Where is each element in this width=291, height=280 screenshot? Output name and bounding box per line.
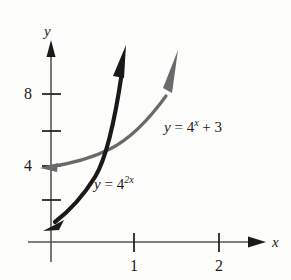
- curve-gray-left-arrowhead: [40, 163, 58, 172]
- x-tick-label-1: 1: [130, 258, 138, 274]
- curve-black-label-lhs: y: [94, 176, 101, 192]
- y-axis-label: y: [44, 24, 51, 39]
- curve-black-label-eq: = 4: [101, 176, 124, 192]
- curve-black-arrowhead: [113, 45, 126, 78]
- x-axis-arrowhead: [248, 237, 266, 248]
- curve-gray-exponential: [40, 50, 178, 172]
- curve-gray-label-eq: = 4: [171, 119, 194, 135]
- curve-gray-label-lhs: y: [164, 119, 171, 135]
- curve-black-exponential: [43, 45, 126, 231]
- curve-black-label: y = 42x: [94, 177, 134, 192]
- curve-gray-path: [48, 96, 166, 167]
- x-axis: [28, 237, 266, 248]
- y-tick-label-4: 4: [24, 158, 32, 174]
- x-tick-label-2: 2: [215, 258, 223, 274]
- y-tick-label-8: 8: [24, 86, 32, 102]
- curve-black-label-exponent: 2x: [124, 174, 133, 185]
- curve-gray-arrowhead: [163, 50, 178, 93]
- plot-canvas: [0, 0, 291, 280]
- x-axis-label: x: [272, 235, 279, 250]
- exponential-graph-figure: y x 8 4 1 2 y = 4x + 3 y = 42x: [0, 0, 291, 280]
- y-axis-arrowhead: [47, 40, 56, 57]
- curve-gray-label-rest: + 3: [199, 119, 222, 135]
- curve-gray-label: y = 4x + 3: [164, 120, 222, 135]
